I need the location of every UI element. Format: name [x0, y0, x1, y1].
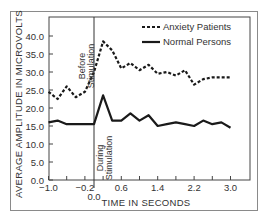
annotation-before-stimulation: Before Stimulation: [77, 44, 96, 89]
x-tick-label: 3.0: [224, 182, 237, 193]
y-tick-label: 35.0: [26, 49, 45, 60]
y-tick-label: 5.0: [31, 157, 44, 168]
x-axis-title: TIME IN SECONDS: [102, 197, 191, 208]
y-tick-label: 40.0: [26, 31, 45, 42]
annotation-during-stimulation: During Stimulation: [95, 136, 114, 181]
legend-label-normal: Normal Persons: [163, 36, 231, 47]
line-chart: 0.05.010.015.020.025.030.035.040.0 −1.0−…: [0, 0, 267, 222]
y-axis-title: AVERAGE AMPLITUDE IN MICROVOLTS: [13, 10, 24, 198]
annotation-before-line2: Stimulation: [86, 44, 96, 89]
legend: Anxiety Patients Normal Persons: [142, 21, 231, 47]
annotation-during-line2: Stimulation: [104, 136, 114, 181]
series-normal-persons-line: [49, 95, 231, 127]
x-tick-label: −1.0: [39, 182, 58, 193]
data-series: [49, 41, 231, 127]
x-tick-label: 2.2: [187, 182, 200, 193]
y-tick-label: 20.0: [26, 103, 45, 114]
y-tick-label: 25.0: [26, 85, 45, 96]
x-tick-label: 1.4: [151, 182, 164, 193]
y-tick-label: 15.0: [26, 121, 45, 132]
x-tick-label: 0.6: [115, 182, 128, 193]
series-anxiety-patients-line: [49, 41, 231, 99]
y-tick-label: 30.0: [26, 67, 45, 78]
x-tick-label: 0.0: [87, 191, 100, 202]
y-tick-label: 10.0: [26, 139, 45, 150]
legend-label-anxiety: Anxiety Patients: [163, 21, 231, 32]
